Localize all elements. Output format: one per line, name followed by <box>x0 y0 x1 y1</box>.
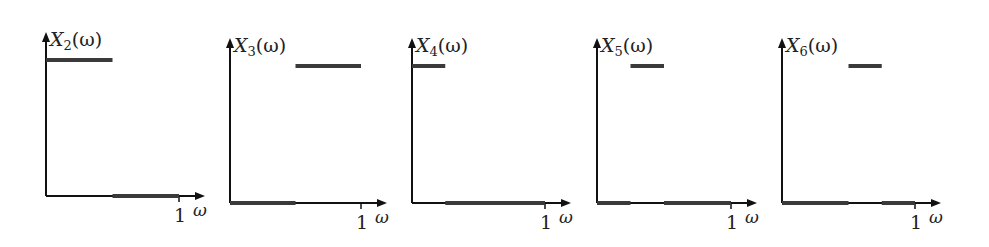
x-axis-arrow-icon <box>747 199 757 207</box>
y-axis-label: X2(ω) <box>48 28 102 53</box>
tick-label: 1 <box>726 211 738 233</box>
panel-x5: 1ωX5(ω) <box>593 34 759 233</box>
x-axis-arrow-icon <box>195 192 205 200</box>
y-axis-arrow-icon <box>226 38 234 48</box>
tick-label: 1 <box>356 211 368 233</box>
y-axis-label: X4(ω) <box>414 34 468 59</box>
panel-x6: 1ωX6(ω) <box>778 34 943 233</box>
panel-x4: 1ωX4(ω) <box>408 34 573 233</box>
y-axis-arrow-icon <box>42 32 50 42</box>
y-axis-arrow-icon <box>408 38 416 48</box>
y-axis-label: X3(ω) <box>232 34 286 59</box>
tick-label: 1 <box>910 211 922 233</box>
tick-label: 1 <box>540 211 552 233</box>
x-axis-arrow-icon <box>561 199 571 207</box>
x-axis-label: ω <box>375 207 389 227</box>
y-axis-label: X6(ω) <box>784 34 838 59</box>
frequency-response-figure: 1ωX2(ω)1ωX3(ω)1ωX4(ω)1ωX5(ω)1ωX6(ω) <box>0 0 989 247</box>
x-axis-label: ω <box>193 200 207 220</box>
x-axis-arrow-icon <box>931 199 941 207</box>
y-axis-arrow-icon <box>778 38 786 48</box>
panel-x2: 1ωX2(ω) <box>42 28 207 226</box>
x-axis-arrow-icon <box>377 199 387 207</box>
y-axis-arrow-icon <box>593 38 601 48</box>
x-axis-label: ω <box>929 207 943 227</box>
panel-x3: 1ωX3(ω) <box>226 34 389 233</box>
x-axis-label: ω <box>745 207 759 227</box>
y-axis-label: X5(ω) <box>599 34 653 59</box>
x-axis-label: ω <box>559 207 573 227</box>
tick-label: 1 <box>174 204 186 226</box>
